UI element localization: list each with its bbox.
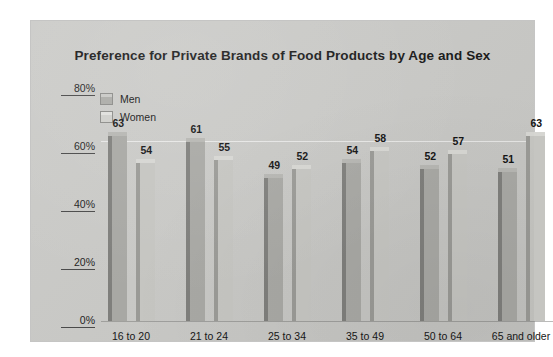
y-axis-tick-80: 80% <box>61 82 95 96</box>
bar-group-21-to-24: 61 55 <box>179 81 239 321</box>
x-axis-label-1: 21 to 24 <box>179 330 239 342</box>
bar-women-25-to-34[interactable]: 52 <box>292 165 311 321</box>
bar-men-25-to-34[interactable]: 49 <box>264 174 283 321</box>
y-axis-tick-20: 20% <box>61 256 95 270</box>
axis-baseline <box>101 321 553 322</box>
bar-value-women-21-to-24: 55 <box>219 141 231 153</box>
y-axis-tick-40: 40% <box>61 198 95 212</box>
bar-value-men-21-to-24: 61 <box>191 123 203 135</box>
bar-men-21-to-24[interactable]: 61 <box>186 138 205 321</box>
bar-value-men-25-to-34: 49 <box>269 159 281 171</box>
bar-value-men-50-to-64: 52 <box>425 150 437 162</box>
bar-women-65-and-older[interactable]: 63 <box>526 132 545 321</box>
y-axis-tick-0: 0% <box>61 314 95 328</box>
bar-groups: 63 54 61 55 49 <box>101 81 551 321</box>
bar-value-men-16-to-20: 63 <box>113 117 125 129</box>
x-axis-label-0: 16 to 20 <box>101 330 161 342</box>
bar-men-16-to-20[interactable]: 63 <box>108 132 127 321</box>
bar-women-35-to-49[interactable]: 58 <box>370 147 389 321</box>
bar-value-women-35-to-49: 58 <box>375 132 387 144</box>
x-axis-label-5: 65 and older <box>491 330 551 342</box>
bar-women-50-to-64[interactable]: 57 <box>448 150 467 321</box>
bar-value-women-25-to-34: 52 <box>297 150 309 162</box>
bar-group-35-to-49: 54 58 <box>335 81 395 321</box>
bar-women-21-to-24[interactable]: 55 <box>214 156 233 321</box>
chart-title: Preference for Private Brands of Food Pr… <box>31 48 534 63</box>
bar-value-women-65-and-older: 63 <box>531 117 543 129</box>
bar-group-16-to-20: 63 54 <box>101 81 161 321</box>
bar-group-50-to-64: 52 57 <box>413 81 473 321</box>
chart-panel: Preference for Private Brands of Food Pr… <box>31 21 534 341</box>
x-axis-labels: 16 to 20 21 to 24 25 to 34 35 to 49 50 t… <box>101 330 551 342</box>
bar-men-65-and-older[interactable]: 51 <box>498 168 517 321</box>
y-axis-tick-60: 60% <box>61 140 95 154</box>
bar-women-16-to-20[interactable]: 54 <box>136 159 155 321</box>
x-axis-label-4: 50 to 64 <box>413 330 473 342</box>
bar-value-women-16-to-20: 54 <box>141 144 153 156</box>
bar-men-35-to-49[interactable]: 54 <box>342 159 361 321</box>
bar-value-men-65-and-older: 51 <box>503 153 515 165</box>
bar-men-50-to-64[interactable]: 52 <box>420 165 439 321</box>
x-axis-label-3: 35 to 49 <box>335 330 395 342</box>
x-axis-label-2: 25 to 34 <box>257 330 317 342</box>
bar-value-men-35-to-49: 54 <box>347 144 359 156</box>
bar-value-women-50-to-64: 57 <box>453 135 465 147</box>
bar-group-25-to-34: 49 52 <box>257 81 317 321</box>
bar-group-65-and-older: 51 63 <box>491 81 551 321</box>
plot-area: 80% 60% 40% 20% 0% 63 54 61 <box>101 81 551 326</box>
